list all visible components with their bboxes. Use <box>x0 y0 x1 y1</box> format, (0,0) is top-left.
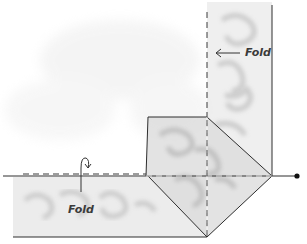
fold-diagram: Fold Fold <box>0 0 307 244</box>
bottom-fold-label: Fold <box>68 203 94 216</box>
fold-diagram-drawing <box>0 0 307 244</box>
top-fold-label: Fold <box>245 46 271 59</box>
end-dot <box>294 173 299 178</box>
